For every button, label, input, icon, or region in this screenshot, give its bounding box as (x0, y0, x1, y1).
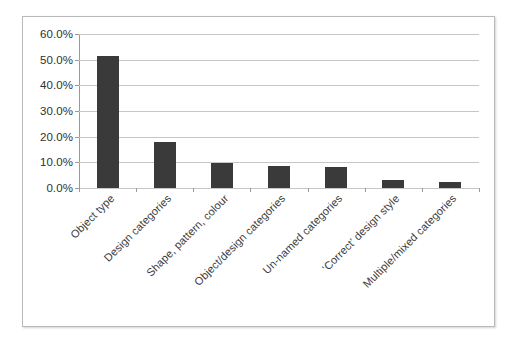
y-tick-mark (75, 60, 79, 61)
x-axis-labels: Object typeDesign categoriesShape, patte… (79, 192, 479, 322)
bar (439, 182, 461, 188)
bar (211, 163, 233, 188)
chart-figure: 60.0%50.0%40.0%30.0%20.0%10.0%0.0% Objec… (22, 16, 495, 327)
y-tick-mark (75, 162, 79, 163)
bar (97, 56, 119, 188)
y-tick-mark (75, 137, 79, 138)
bar (325, 167, 347, 188)
gridline-200 (79, 137, 479, 138)
x-axis-label: Multiple/mixed categories (361, 192, 459, 290)
x-tick-mark (479, 188, 480, 192)
gridline-600 (79, 34, 479, 35)
y-tick-mark (75, 34, 79, 35)
gridline-300 (79, 111, 479, 112)
y-tick-mark (75, 85, 79, 86)
y-tick-mark (75, 111, 79, 112)
y-tick-label: 60.0% (40, 28, 73, 40)
gridline-100 (79, 162, 479, 163)
gridline-400 (79, 85, 479, 86)
y-tick-label: 40.0% (40, 79, 73, 91)
bar (154, 142, 176, 188)
y-tick-label: 10.0% (40, 156, 73, 168)
bar (382, 180, 404, 188)
y-tick-label: 20.0% (40, 131, 73, 143)
y-tick-label: 50.0% (40, 54, 73, 66)
gridline-500 (79, 60, 479, 61)
y-tick-label: 0.0% (46, 182, 73, 194)
y-tick-label: 30.0% (40, 105, 73, 117)
plot-area: 60.0%50.0%40.0%30.0%20.0%10.0%0.0% (79, 34, 479, 188)
x-axis-label: Object type (67, 192, 116, 241)
bar (268, 166, 290, 188)
gridline-00 (79, 188, 479, 189)
